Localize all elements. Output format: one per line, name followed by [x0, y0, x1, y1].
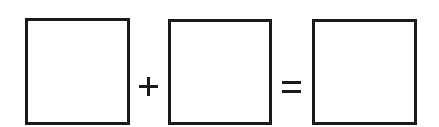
- box-1-content: [28, 21, 29, 22]
- empty-box-1: [25, 18, 130, 125]
- plus-symbol: +: [139, 77, 140, 78]
- box-2-content: [171, 22, 172, 23]
- box-3-content: [315, 22, 316, 23]
- equals-bottom-bar: [282, 90, 301, 93]
- empty-box-2: [168, 19, 272, 125]
- plus-icon: +: [139, 77, 158, 96]
- empty-box-3: [312, 19, 417, 125]
- equals-top-bar: [282, 81, 301, 84]
- equals-icon: =: [282, 81, 301, 93]
- plus-vertical-bar: [147, 77, 150, 96]
